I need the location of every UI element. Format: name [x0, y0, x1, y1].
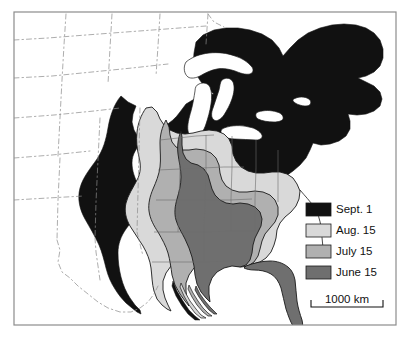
legend-label-aug-15: Aug. 15 [336, 224, 376, 236]
legend-swatch-july-15 [306, 245, 331, 258]
legend-swatch-sept-1 [306, 203, 331, 216]
legend-swatch-aug-15 [306, 224, 331, 237]
legend-label-june-15: June 15 [336, 266, 377, 278]
scale-bar-label: 1000 km [325, 293, 369, 305]
map-canvas: Sept. 1 Aug. 15 July 15 June 15 1000 km [0, 0, 408, 337]
map-figure: Sept. 1 Aug. 15 July 15 June 15 1000 km [0, 0, 408, 337]
legend-swatch-june-15 [306, 266, 331, 279]
legend-label-sept-1: Sept. 1 [336, 203, 372, 215]
legend-label-july-15: July 15 [336, 245, 372, 257]
